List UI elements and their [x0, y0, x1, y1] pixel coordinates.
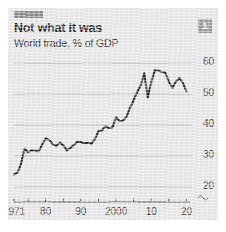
x-axis-tick-label: 90 — [61, 207, 101, 217]
x-axis-tick-label: 20 — [166, 207, 206, 217]
axis-break-icon — [198, 196, 208, 200]
data-series-line — [14, 70, 186, 174]
y-axis-tick-label: 30 — [203, 150, 214, 160]
page-title: Not what it was — [14, 21, 102, 35]
x-axis-tick-label: 80 — [26, 207, 66, 217]
chart-card: Not what it was World trade, % of GDP 1 … — [8, 8, 218, 220]
y-axis-tick-label: 60 — [203, 57, 214, 67]
chart-subtitle: World trade, % of GDP — [14, 37, 119, 49]
x-axis-tick-label: 10 — [131, 207, 171, 217]
y-axis-tick-label: 50 — [203, 88, 214, 98]
x-axis-tick-label: 2000 — [96, 207, 136, 217]
top-rule-decoration — [14, 11, 43, 18]
y-axis-tick-label: 20 — [203, 181, 214, 191]
figure-number-badge: 1 — [198, 19, 212, 33]
y-axis-tick-label: 40 — [203, 119, 214, 129]
